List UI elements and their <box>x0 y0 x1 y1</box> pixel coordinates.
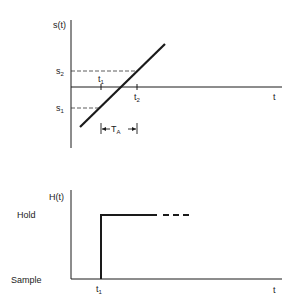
hold-step-line <box>101 215 157 279</box>
top-plot: s(t) t s2 s1 t1 t2 TA <box>53 20 282 148</box>
top-x-axis-label: t <box>273 92 276 102</box>
sample-label: Sample <box>11 275 42 285</box>
bottom-plot: H(t) Hold Sample t t1 <box>11 190 282 295</box>
bottom-t1-label: t1 <box>96 284 103 295</box>
s2-label: s2 <box>56 66 65 77</box>
ta-label: TA <box>111 124 121 135</box>
bottom-x-axis-label: t <box>273 285 276 295</box>
hold-label: Hold <box>17 210 36 220</box>
t1-label: t1 <box>98 74 105 85</box>
top-y-axis-label: s(t) <box>53 20 66 30</box>
signal-ramp-line <box>80 44 165 127</box>
s1-label: s1 <box>56 103 65 114</box>
diagram: s(t) t s2 s1 t1 t2 TA H(t) Hold Sample t… <box>0 0 293 305</box>
t2-label: t2 <box>134 92 141 103</box>
bottom-y-axis-label: H(t) <box>49 192 64 202</box>
